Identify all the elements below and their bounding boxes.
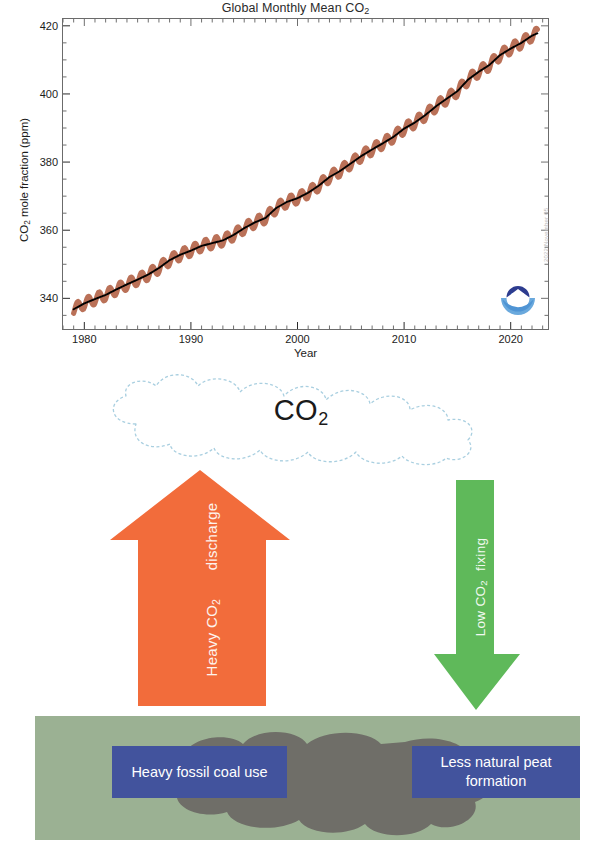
- y-axis-label-subscript: 2: [23, 220, 32, 225]
- x-tick-1990: 1990: [161, 333, 221, 345]
- x-tick-2010: 2010: [374, 333, 434, 345]
- co2-cloud: CO2: [96, 372, 506, 468]
- y-tick-340: 340: [22, 292, 58, 304]
- plot-frame: [62, 18, 549, 330]
- chart-title-text: Global Monthly Mean CO: [222, 1, 365, 15]
- y-tick-420: 420: [22, 20, 58, 32]
- cloud-co2-label: CO2: [96, 394, 506, 427]
- chart-title: Global Monthly Mean CO2: [0, 1, 591, 15]
- low-co2-fixing-arrow: [432, 478, 524, 712]
- y-axis-label-rest: mole fraction (ppm): [18, 118, 30, 220]
- y-tick-400: 400: [22, 88, 58, 100]
- ground-box-heavy-fossil-coal-use[interactable]: Heavy fossil coal use: [112, 746, 287, 798]
- chart-credit-text: 2022 November 05: [543, 208, 549, 262]
- x-tick-2020: 2020: [481, 333, 541, 345]
- y-axis-label: CO2 mole fraction (ppm): [18, 100, 30, 260]
- x-tick-2000: 2000: [268, 333, 328, 345]
- ground-box-less-natural-peat-formation[interactable]: Less natural peat formation: [412, 746, 580, 798]
- heavy-co2-discharge-arrow: [108, 468, 292, 708]
- y-axis-label-base: CO: [18, 225, 30, 242]
- cloud-label-subscript: 2: [318, 409, 328, 429]
- svg-text:NOAA: NOAA: [511, 293, 525, 298]
- co2-chart-panel: Global Monthly Mean CO2 340360380400420 …: [0, 0, 591, 360]
- noaa-logo-icon: NOAA: [498, 281, 538, 321]
- x-axis-label: Year: [62, 347, 549, 359]
- cloud-label-base: CO: [274, 394, 318, 426]
- x-tick-1980: 1980: [54, 333, 114, 345]
- chart-title-subscript: 2: [364, 6, 369, 16]
- co2-infographic-page: Global Monthly Mean CO2 340360380400420 …: [0, 0, 591, 843]
- co2-line-plot: [63, 19, 548, 329]
